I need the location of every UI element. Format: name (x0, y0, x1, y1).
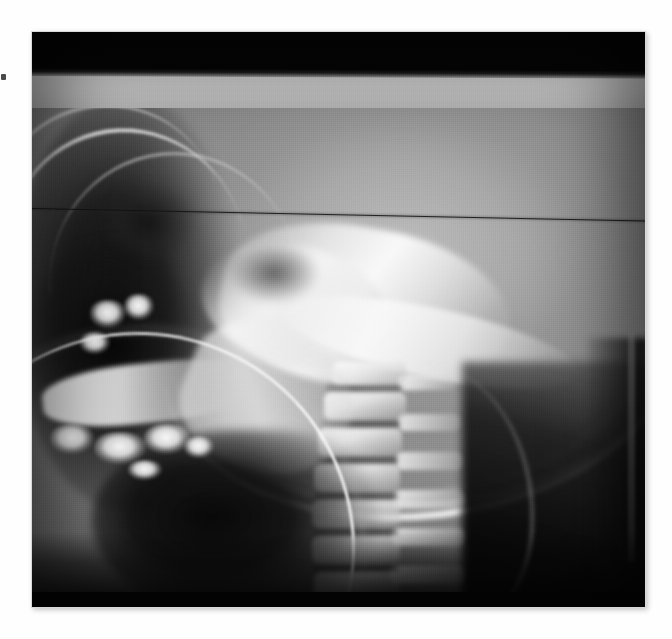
page-background (0, 0, 672, 639)
tooth-2 (124, 294, 154, 320)
orbit-sinus-region (102, 182, 197, 262)
film-base-tone (32, 72, 645, 607)
scan-line-halo (32, 207, 645, 223)
disc-space-2 (320, 420, 400, 429)
scalp-soft-tissue-band (32, 72, 645, 108)
facial-air-region (32, 92, 242, 512)
tooth-1 (90, 300, 126, 328)
vertebra-c2 (324, 392, 406, 420)
sella-turcica-region (228, 242, 320, 304)
film-grain-texture (32, 32, 645, 607)
scan-artifact-line (32, 208, 645, 222)
skull-base-mass (208, 204, 521, 412)
film-vignette (32, 32, 645, 607)
disc-space-6 (313, 564, 398, 573)
occipital-bone-arc (143, 152, 645, 550)
dental-appliance-arc (32, 325, 362, 607)
spinous-process-5 (392, 528, 464, 546)
mandibular-ramus (162, 305, 372, 498)
frontal-ridge-arc-2 (32, 103, 273, 408)
top-collimation-band (32, 32, 645, 72)
collimation-band-edge (32, 68, 645, 79)
occipital-inner-table (167, 168, 645, 518)
tooth-7 (184, 436, 214, 458)
occipital-arc-soft (156, 142, 645, 537)
tooth-4 (50, 424, 94, 454)
disc-space-4 (314, 492, 398, 501)
spinous-process-6 (390, 566, 464, 584)
posterior-soft-tissue-line (325, 357, 542, 607)
vertebra-c6 (312, 536, 400, 564)
facial-air-region-inner (32, 242, 197, 442)
spinous-process-3 (396, 452, 462, 470)
radiograph-film[interactable] (32, 32, 645, 607)
disc-space-1 (326, 384, 402, 393)
spinous-process-1 (398, 374, 456, 390)
vertebra-c4 (314, 464, 400, 492)
vertebra-c7 (314, 572, 400, 598)
film-bottom-gradient (32, 532, 645, 607)
mandibular-body (39, 350, 274, 434)
disc-space-3 (316, 456, 398, 465)
cranial-vault-region (182, 78, 645, 438)
disc-space-5 (313, 528, 398, 537)
vertebra-c1 (332, 362, 406, 384)
frontal-ridge-arc-3 (37, 140, 313, 428)
spinous-process-4 (394, 490, 464, 508)
edge-speck-artifact (1, 74, 6, 80)
posterior-neck-edge (588, 338, 645, 607)
posterior-neck-dark (462, 362, 645, 607)
vertebra-c5 (312, 500, 400, 528)
cassette-edge-strip (628, 332, 635, 562)
film-bottom-border (32, 592, 645, 607)
tooth-8 (128, 460, 162, 480)
frontal-ridge-arc-1 (32, 74, 252, 367)
spinous-process-2 (398, 414, 460, 431)
vertebra-c3 (318, 428, 402, 456)
tooth-6 (144, 424, 190, 454)
bright-arc-halo (32, 318, 374, 607)
skull-base-mass-inner (188, 225, 401, 387)
tooth-5 (94, 432, 146, 464)
tooth-3 (80, 332, 110, 354)
clivus-streak (278, 278, 586, 409)
oropharyngeal-airway (92, 430, 392, 607)
